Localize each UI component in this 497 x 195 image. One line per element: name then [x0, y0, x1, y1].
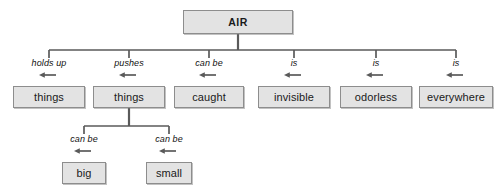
- node-odorless[interactable]: odorless: [340, 86, 412, 108]
- node-everywhere-label: everywhere: [427, 92, 485, 103]
- level1-drops: [49, 50, 456, 58]
- node-caught-label: caught: [192, 92, 226, 103]
- edge-label-pushes: pushes: [114, 59, 144, 68]
- node-big[interactable]: big: [62, 162, 106, 184]
- node-caught[interactable]: caught: [174, 86, 244, 108]
- edge-label-holds-up: holds up: [32, 59, 67, 68]
- concept-map-diagram: AIR things things caught invisible odorl…: [0, 0, 497, 195]
- node-odorless-label: odorless: [355, 92, 397, 103]
- node-small[interactable]: small: [146, 162, 192, 184]
- node-small-label: small: [156, 168, 182, 179]
- node-invisible[interactable]: invisible: [258, 86, 330, 108]
- edge-label-is-everywhere: is: [453, 59, 460, 68]
- node-things-pushes-label: things: [114, 92, 144, 103]
- node-things-pushes[interactable]: things: [93, 86, 165, 108]
- node-everywhere[interactable]: everywhere: [419, 86, 493, 108]
- edge-label-can-be-big: can be: [70, 135, 98, 144]
- node-air[interactable]: AIR: [183, 10, 293, 34]
- level2-bus: [84, 126, 169, 134]
- edge-label-can-be-small: can be: [155, 135, 183, 144]
- node-big-label: big: [77, 168, 92, 179]
- node-things-holds-up-label: things: [34, 92, 64, 103]
- node-things-holds-up[interactable]: things: [13, 86, 85, 108]
- edge-label-is-odorless: is: [373, 59, 380, 68]
- node-invisible-label: invisible: [274, 92, 314, 103]
- edge-label-is-invisible: is: [291, 59, 298, 68]
- edge-label-can-be-caught: can be: [195, 59, 223, 68]
- node-air-label: AIR: [228, 17, 247, 28]
